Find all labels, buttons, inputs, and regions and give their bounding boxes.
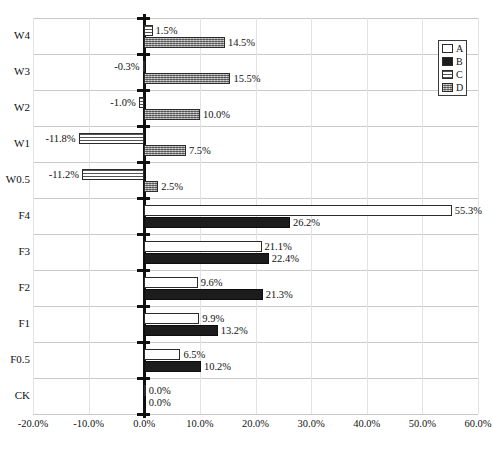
bar-value-label: 15.5%: [230, 73, 260, 84]
bar-value-label: 14.5%: [225, 37, 255, 48]
axis-tick-mark: [137, 161, 150, 164]
legend-label: B: [456, 57, 463, 66]
bar-F3-series-A: [144, 241, 261, 252]
y-axis-category-label: F3: [0, 245, 30, 257]
legend-item-c: C: [442, 70, 463, 79]
bar-value-label: 55.3%: [452, 205, 482, 216]
axis-tick-mark: [137, 269, 150, 272]
bar-value-label: 13.2%: [218, 325, 248, 336]
bar-W1-series-C: [79, 133, 145, 144]
gridline-vertical: [89, 18, 90, 414]
bar-value-label: 0.0%: [146, 385, 171, 396]
bar-F0-5-series-A: [144, 349, 180, 360]
bar-value-label: 1.5%: [153, 25, 178, 36]
bar-value-label: 9.9%: [199, 313, 224, 324]
x-axis-tick-label: 10.0%: [186, 418, 213, 429]
x-axis-tick-label: 0.0%: [133, 418, 155, 429]
bar-value-label: 10.2%: [201, 361, 231, 372]
plot-area: 1.5%14.5%-0.3%15.5%-1.0%10.0%-11.8%7.5%-…: [33, 18, 478, 414]
gridline-vertical: [422, 18, 423, 414]
bar-W2-series-C: [139, 97, 145, 108]
bar-value-label: 9.6%: [198, 277, 223, 288]
axis-tick-mark: [137, 17, 150, 20]
legend-label: C: [456, 70, 463, 79]
bar-value-label: 21.1%: [262, 241, 292, 252]
y-axis-category-label: W0.5: [0, 173, 30, 185]
bar-F4-series-B: [144, 217, 290, 228]
gridline-horizontal: [33, 414, 478, 415]
legend-swatch-b-icon: [442, 57, 453, 66]
bar-W4-series-C: [144, 25, 152, 36]
x-axis-tick-label: 50.0%: [409, 418, 436, 429]
bar-F0-5-series-B: [144, 361, 201, 372]
legend-label: A: [456, 44, 463, 53]
bar-W0-5-series-D: [144, 181, 158, 192]
bar-value-label: -1.0%: [110, 97, 138, 108]
bar-value-label: 6.5%: [180, 349, 205, 360]
bar-value-label: 26.2%: [290, 217, 320, 228]
x-axis-tick-label: 40.0%: [353, 418, 380, 429]
axis-tick-mark: [137, 413, 150, 416]
bar-value-label: -0.3%: [114, 61, 142, 72]
bar-value-label: 0.0%: [146, 397, 171, 408]
bar-value-label: 7.5%: [186, 145, 211, 156]
bar-value-label: 22.4%: [269, 253, 299, 264]
bar-value-label: -11.8%: [45, 133, 78, 144]
x-axis-tick-label: 20.0%: [242, 418, 269, 429]
legend-swatch-c-icon: [442, 70, 453, 79]
gridline-vertical: [33, 18, 34, 414]
axis-tick-mark: [137, 53, 150, 56]
bar-W2-series-D: [144, 109, 200, 120]
bar-W3-series-D: [144, 73, 230, 84]
legend-label: D: [456, 83, 463, 92]
gridline-vertical: [478, 18, 479, 414]
bar-value-label: 21.3%: [263, 289, 293, 300]
bar-W1-series-D: [144, 145, 186, 156]
bar-F2-series-B: [144, 289, 262, 300]
x-axis-tick-labels: -20.0%-10.0%0.0%10.0%20.0%30.0%40.0%50.0…: [33, 418, 478, 436]
axis-tick-mark: [137, 89, 150, 92]
x-axis-tick-label: -20.0%: [18, 418, 49, 429]
x-axis-tick-label: 60.0%: [464, 418, 491, 429]
bar-W3-series-C: [143, 61, 145, 72]
bar-F1-series-A: [144, 313, 199, 324]
x-axis-tick-label: 30.0%: [298, 418, 325, 429]
legend-item-d: D: [442, 83, 463, 92]
bar-value-label: 2.5%: [158, 181, 183, 192]
axis-tick-mark: [137, 197, 150, 200]
y-axis-category-label: W2: [0, 101, 30, 113]
legend-swatch-a-icon: [442, 44, 453, 53]
bar-W0-5-series-C: [82, 169, 144, 180]
y-axis-category-label: W1: [0, 137, 30, 149]
gridline-vertical: [367, 18, 368, 414]
axis-tick-mark: [137, 305, 150, 308]
y-axis-category-label: W4: [0, 29, 30, 41]
axis-tick-mark: [137, 341, 150, 344]
legend-swatch-d-icon: [442, 83, 453, 92]
bar-value-label: -11.2%: [49, 169, 82, 180]
y-axis-category-label: F2: [0, 281, 30, 293]
bar-W4-series-D: [144, 37, 225, 48]
legend-item-a: A: [442, 44, 463, 53]
axis-tick-mark: [137, 377, 150, 380]
bar-F4-series-A: [144, 205, 452, 216]
y-axis-category-label: W3: [0, 65, 30, 77]
y-axis-category-label: F1: [0, 317, 30, 329]
y-axis-category-label: CK: [0, 389, 30, 401]
y-axis-category-label: F0.5: [0, 353, 30, 365]
legend-item-b: B: [442, 57, 463, 66]
bar-F1-series-B: [144, 325, 217, 336]
bar-F3-series-B: [144, 253, 269, 264]
bar-F2-series-A: [144, 277, 197, 288]
bar-value-label: 10.0%: [200, 109, 230, 120]
axis-tick-mark: [137, 125, 150, 128]
x-axis-tick-label: -10.0%: [73, 418, 104, 429]
axis-tick-mark: [137, 233, 150, 236]
chart-legend: ABCD: [438, 40, 467, 96]
y-axis-category-label: F4: [0, 209, 30, 221]
